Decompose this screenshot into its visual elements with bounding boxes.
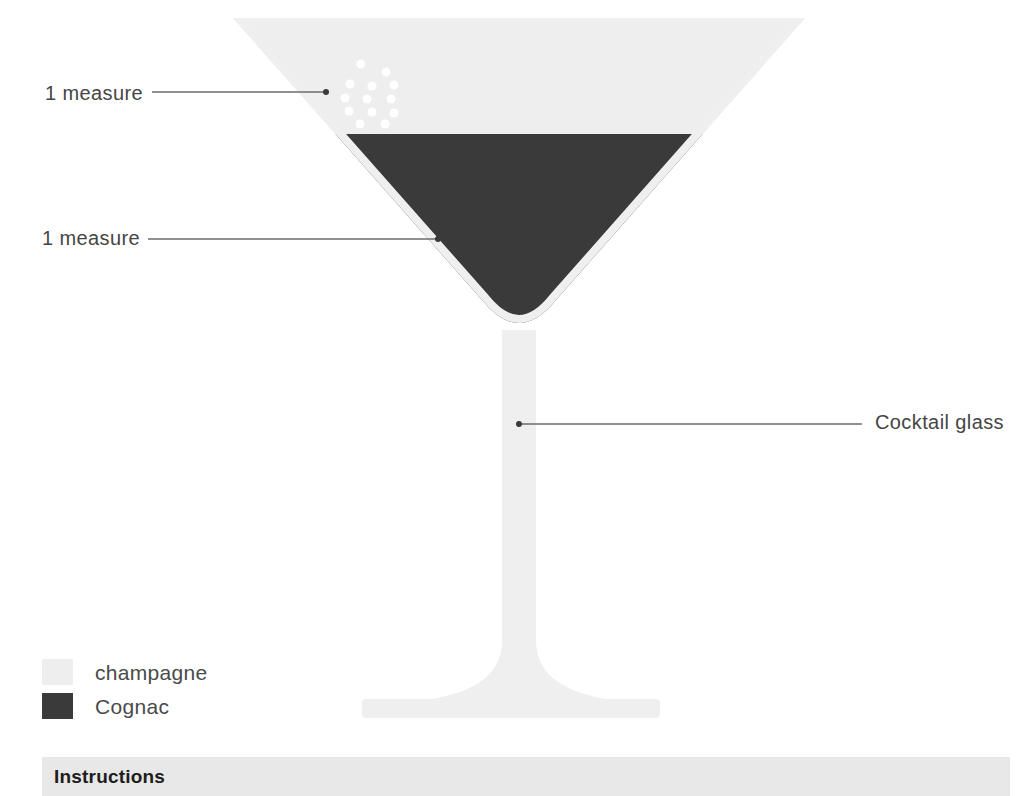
instructions-heading: Instructions — [54, 767, 165, 786]
leader-dot-champagne — [323, 89, 329, 95]
legend-item-champagne: champagne — [42, 655, 362, 689]
legend-swatch-cognac — [42, 693, 73, 719]
legend-label-cognac: Cognac — [95, 696, 169, 717]
glass-stem-and-base — [362, 330, 660, 718]
instructions-section-header: Instructions — [42, 757, 1010, 796]
ingredient-legend: champagne Cognac — [42, 655, 362, 723]
callout-label-cocktail-glass: Cocktail glass — [875, 412, 1004, 432]
glass-stem — [502, 330, 536, 670]
legend-label-champagne: champagne — [95, 662, 207, 683]
cocktail-recipe-diagram: 1 measure 1 measure Cocktail glass champ… — [0, 0, 1030, 796]
glass-bowl — [225, 18, 815, 354]
callout-label-champagne-measure: 1 measure — [45, 83, 143, 103]
legend-swatch-champagne — [42, 659, 73, 685]
leader-dot-cognac — [435, 236, 441, 242]
legend-item-cognac: Cognac — [42, 689, 362, 723]
leader-dot-glass — [516, 421, 522, 427]
champagne-layer — [225, 18, 815, 134]
callout-label-cognac-measure: 1 measure — [42, 228, 140, 248]
glass-stem-flare — [420, 640, 618, 701]
glass-base — [362, 699, 660, 718]
